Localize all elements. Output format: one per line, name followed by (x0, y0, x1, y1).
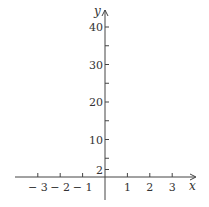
y-axis-label: y (93, 4, 101, 18)
x-tick-label: 2 (146, 181, 153, 194)
x-tick-label: − 1 (73, 181, 93, 194)
x-tick-label: 1 (124, 181, 131, 194)
y-tick-label: 10 (89, 134, 103, 147)
x-tick-label: − 3 (28, 181, 48, 194)
x-tick-label: − 2 (50, 181, 70, 194)
x-axis-label: x (189, 179, 196, 193)
y-tick-label: 40 (89, 21, 103, 34)
x-tick-label: 3 (169, 181, 176, 194)
y-tick-label: 30 (89, 59, 103, 72)
axes (15, 10, 196, 200)
coordinate-plane: − 3− 2− 1123 210203040 x y (0, 0, 209, 207)
y-tick-label: 2 (96, 164, 103, 177)
y-tick-label: 20 (89, 96, 103, 109)
y-axis-ticks: 210203040 (89, 21, 109, 177)
